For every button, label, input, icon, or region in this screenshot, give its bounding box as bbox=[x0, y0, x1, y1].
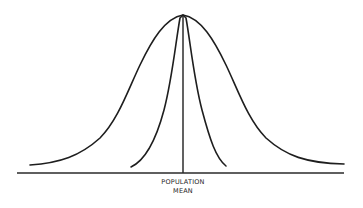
wide-bell-curve bbox=[30, 15, 344, 165]
mean-label-line1: POPULATION bbox=[133, 178, 233, 186]
mean-label-line2: MEAN bbox=[133, 187, 233, 195]
distribution-diagram bbox=[0, 0, 363, 208]
